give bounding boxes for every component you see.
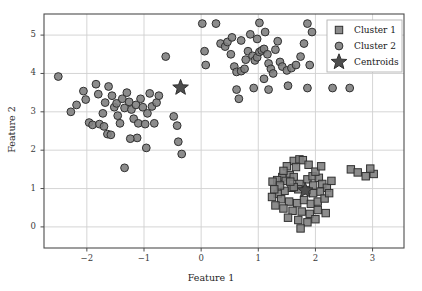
data-point-circle <box>241 65 249 73</box>
data-point-circle <box>54 73 62 81</box>
data-point-square <box>304 219 311 226</box>
plot-canvas: Cluster 1Cluster 2Centroids <box>0 0 422 291</box>
data-point-circle <box>198 20 206 28</box>
data-point-circle <box>121 164 129 172</box>
data-point-circle <box>250 84 258 92</box>
data-point-circle <box>329 84 337 92</box>
data-point-circle <box>100 122 108 130</box>
data-point-circle <box>246 30 254 38</box>
x-tick-label: 1 <box>238 253 278 263</box>
data-point-square <box>354 169 361 176</box>
data-point-square <box>269 178 276 185</box>
data-point-circle <box>123 89 131 97</box>
data-point-circle <box>300 40 308 48</box>
x-tick-label: −1 <box>124 253 164 263</box>
x-tick-label: 0 <box>181 253 221 263</box>
data-point-square <box>268 193 275 200</box>
x-tick-label: −2 <box>67 253 107 263</box>
data-point-circle <box>212 20 220 28</box>
data-point-circle <box>308 28 316 36</box>
y-tick-label: 5 <box>10 29 36 39</box>
data-point-square <box>300 196 307 203</box>
data-point-circle <box>73 101 81 109</box>
data-point-square <box>298 208 305 215</box>
data-point-circle <box>297 53 305 61</box>
data-point-square <box>292 163 299 170</box>
data-point-circle <box>116 119 124 127</box>
data-point-circle <box>292 61 300 69</box>
data-point-circle <box>233 86 241 94</box>
data-point-circle <box>173 122 181 130</box>
data-point-circle <box>260 75 268 83</box>
data-point-square <box>280 205 287 212</box>
data-point-circle <box>227 50 235 58</box>
legend-label-cluster-1: Cluster 1 <box>354 25 396 35</box>
legend-label-cluster-2: Cluster 2 <box>354 41 396 51</box>
data-point-circle <box>105 83 113 91</box>
data-point-square <box>295 216 302 223</box>
data-point-circle <box>274 37 282 45</box>
data-point-square <box>309 189 316 196</box>
data-point-circle <box>80 87 88 95</box>
data-point-circle <box>304 20 312 28</box>
data-point-circle <box>256 19 264 27</box>
data-point-circle <box>228 34 236 42</box>
data-point-circle <box>92 80 100 88</box>
data-point-circle <box>114 112 122 120</box>
data-point-circle <box>99 109 107 117</box>
data-point-circle <box>67 108 75 116</box>
data-point-square <box>316 188 323 195</box>
data-point-circle <box>101 99 109 107</box>
x-tick-label: 2 <box>295 253 335 263</box>
data-point-square <box>307 200 314 207</box>
data-point-circle <box>174 138 182 146</box>
data-point-circle <box>144 109 152 117</box>
data-point-square <box>312 216 319 223</box>
data-point-square <box>285 198 292 205</box>
data-point-square <box>287 178 294 185</box>
data-point-square <box>305 161 312 168</box>
data-point-square <box>322 209 329 216</box>
data-point-circle <box>201 47 209 55</box>
data-point-circle <box>94 90 102 98</box>
data-point-circle <box>170 113 178 121</box>
data-point-circle <box>150 119 158 127</box>
data-point-square <box>325 189 332 196</box>
data-point-circle <box>178 150 186 158</box>
data-point-square <box>289 207 296 214</box>
data-point-circle <box>146 90 154 98</box>
data-point-circle <box>265 86 273 94</box>
legend[interactable]: Cluster 1Cluster 2Centroids <box>327 20 402 72</box>
data-point-square <box>280 167 287 174</box>
data-point-circle <box>108 92 116 100</box>
data-point-circle <box>269 70 277 78</box>
data-point-circle <box>306 61 314 69</box>
legend-marker-circle <box>335 42 343 50</box>
x-tick-label: 3 <box>353 253 393 263</box>
data-point-circle <box>272 46 280 54</box>
data-point-square <box>328 177 335 184</box>
y-tick-label: 0 <box>10 221 36 231</box>
data-point-square <box>362 173 369 180</box>
data-point-square <box>367 165 374 172</box>
data-point-square <box>314 206 321 213</box>
data-point-square <box>347 166 354 173</box>
data-point-circle <box>237 37 245 45</box>
scatter-plot-figure: Cluster 1Cluster 2Centroids −2−101230123… <box>0 0 422 291</box>
data-point-circle <box>284 82 292 90</box>
y-axis-label: Feature 2 <box>6 70 17 190</box>
data-point-square <box>284 214 291 221</box>
legend-marker-square <box>335 26 342 33</box>
x-axis-label: Feature 1 <box>0 272 422 283</box>
legend-label-centroids: Centroids <box>354 57 399 67</box>
data-point-circle <box>107 131 115 139</box>
data-point-circle <box>304 84 312 92</box>
data-point-circle <box>82 96 90 104</box>
data-point-square <box>272 202 279 209</box>
data-point-circle <box>137 95 145 103</box>
data-point-circle <box>261 28 269 36</box>
data-point-circle <box>126 135 134 143</box>
data-point-circle <box>346 84 354 92</box>
data-point-circle <box>253 35 261 43</box>
data-point-square <box>317 163 324 170</box>
